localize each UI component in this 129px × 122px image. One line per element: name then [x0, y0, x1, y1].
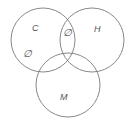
circle-h: [60, 8, 124, 72]
empty-set-c-and-h: ∅: [63, 27, 73, 38]
venn-diagram: C H M ∅ ∅: [0, 0, 129, 122]
circle-m: [36, 53, 100, 117]
label-set-m: M: [60, 92, 68, 102]
label-set-c: C: [32, 23, 39, 33]
empty-set-c-only: ∅: [23, 48, 33, 59]
circle-c: [11, 8, 75, 72]
label-set-h: H: [94, 24, 101, 34]
